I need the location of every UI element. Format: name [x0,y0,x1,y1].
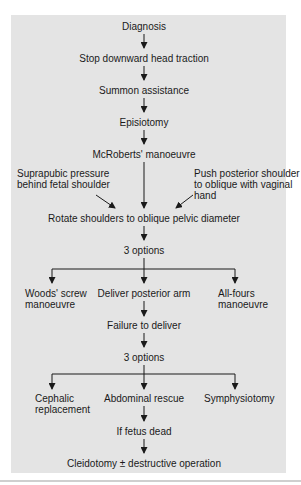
node-abdominal-rescue: Abdominal rescue [104,393,184,404]
arrow-suprapubic-rotate [96,195,115,208]
node-cleidotomy: Cleidotomy ± destructive operation [67,458,221,469]
node-failure: Failure to deliver [107,320,181,331]
node-summon-assistance: Summon assistance [99,85,189,96]
arrow-push-rotate [176,195,193,208]
node-options-2: 3 options [124,352,165,363]
node-rotate: Rotate shoulders to oblique pelvic diame… [48,213,240,224]
node-episiotomy: Episiotomy [120,117,169,128]
branch-options1 [52,258,235,283]
node-push-line2: to oblique with vaginal [194,179,292,190]
node-suprapubic-line1: Suprapubic pressure [17,168,109,179]
node-woods-line1: Woods' screw [25,288,87,299]
node-diagnosis: Diagnosis [122,21,166,32]
node-woods-line2: manoeuvre [25,299,75,310]
node-cephalic-line1: Cephalic [35,393,74,404]
node-fetus-dead: If fetus dead [116,426,171,437]
node-push-line1: Push posterior shoulder [194,168,300,179]
node-cephalic-line2: replacement [35,404,90,415]
node-posterior-arm: Deliver posterior arm [98,288,191,299]
node-options-1: 3 options [124,245,165,256]
node-allfours-line2: manoeuvre [218,299,268,310]
node-symphysiotomy: Symphysiotomy [204,393,275,404]
node-mcroberts: McRoberts' manoeuvre [92,149,195,160]
node-push-line3: hand [194,190,216,201]
node-allfours-line1: All-fours [218,288,255,299]
branch-options2 [52,365,235,389]
node-suprapubic-line2: behind fetal shoulder [17,179,110,190]
node-stop-traction: Stop downward head traction [79,53,209,64]
